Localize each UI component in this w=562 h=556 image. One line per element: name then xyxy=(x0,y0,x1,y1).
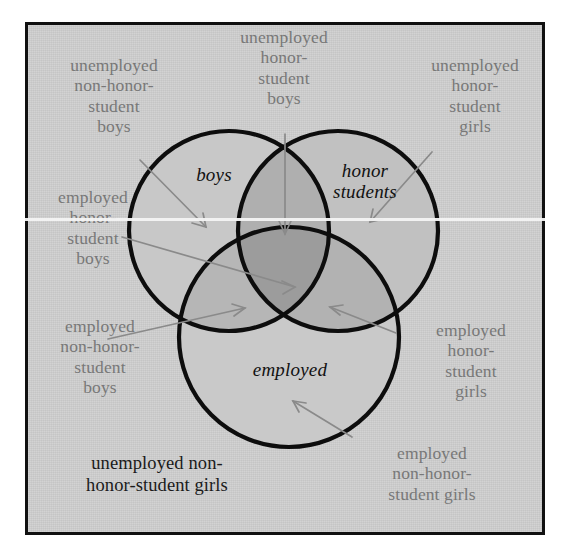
set-label-honor-students: honor students xyxy=(310,160,420,203)
callout-employed-honor-student-girls: employed honor- student girls xyxy=(396,320,546,402)
callout-unemployed-honor-student-girls: unemployed honor- student girls xyxy=(400,55,550,137)
callout-unemployed-honor-student-boys: unemployed honor- student boys xyxy=(214,27,354,109)
callout-employed-non-honor-student-boys: employed non-honor- student boys xyxy=(18,316,182,398)
callout-employed-non-honor-student-girls: employed non-honor- student girls xyxy=(348,443,516,504)
callout-employed-honor-student-boys: employed honor- student boys xyxy=(20,187,166,269)
venn-figure: boys honor students employed unemployed … xyxy=(0,0,562,556)
callout-unemployed-non-honor-student-girls: unemployed non- honor-student girls xyxy=(44,452,270,496)
callout-unemployed-non-honor-student-boys: unemployed non-honor- student boys xyxy=(24,55,204,137)
set-label-boys: boys xyxy=(168,164,260,185)
set-label-employed: employed xyxy=(222,359,358,380)
